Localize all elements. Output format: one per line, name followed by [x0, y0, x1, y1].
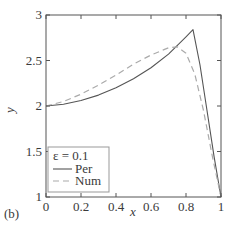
y-axis-label: y — [2, 107, 17, 115]
x-tick-label: 0.2 — [73, 199, 89, 214]
x-tick-label: 0.6 — [143, 199, 160, 214]
legend-label-num: Num — [75, 173, 101, 188]
chart: 00.20.40.60.8111.522.53 ε = 0.1PerNum x … — [0, 0, 234, 242]
y-tick-label: 2 — [36, 98, 43, 113]
x-tick-label: 0 — [43, 199, 50, 214]
legend: ε = 0.1PerNum — [48, 147, 109, 192]
y-tick-label: 1 — [36, 189, 43, 204]
y-tick-label: 3 — [36, 7, 43, 22]
panel-label: (b) — [4, 206, 19, 221]
x-tick-label: 0.8 — [178, 199, 194, 214]
x-axis-label: x — [129, 204, 136, 219]
x-tick-label: 0.4 — [108, 199, 125, 214]
y-tick-label: 1.5 — [26, 144, 42, 159]
x-tick-label: 1 — [218, 199, 225, 214]
y-tick-label: 2.5 — [26, 53, 42, 68]
